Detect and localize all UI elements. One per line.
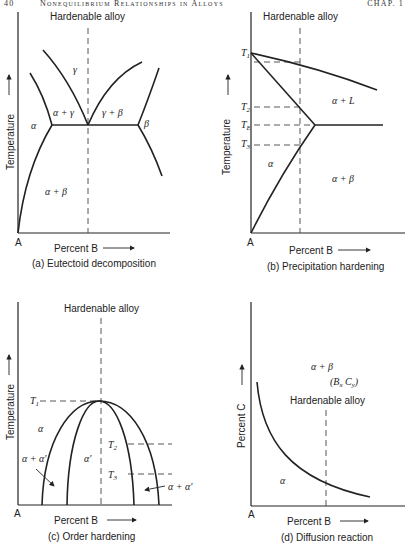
panel-a-eutectoid: Hardenable alloy γ α + γ γ + β α β α + β… [5, 11, 170, 269]
svg-text:β: β [143, 118, 149, 129]
panel-d-top-label: Hardenable alloy [290, 395, 365, 406]
svg-text:T3: T3 [108, 469, 118, 482]
svg-text:α + L: α + L [332, 95, 355, 106]
panel-a-x-label: Percent B [54, 243, 98, 254]
panel-c-top-label: Hardenable alloy [64, 303, 139, 314]
panel-c-origin: A [14, 508, 21, 519]
panel-a-caption: (a) Eutectoid decomposition [32, 258, 156, 269]
svg-text:T3: T3 [241, 138, 251, 151]
panel-d-x-label: Percent B [287, 516, 331, 527]
svg-text:α + β: α + β [45, 186, 67, 197]
panel-d-caption: (d) Diffusion reaction [281, 532, 373, 543]
panel-c-order: Hardenable alloy T1 T2 T3 α α + α' α' α … [5, 302, 193, 542]
svg-text:α: α [268, 158, 274, 169]
panel-b-x-label: Percent B [289, 245, 333, 256]
panel-b-top-label: Hardenable alloy [263, 11, 338, 22]
svg-text:γ + β: γ + β [102, 107, 123, 118]
panel-c-x-label: Percent B [54, 515, 98, 526]
panel-a-top-label: Hardenable alloy [50, 11, 125, 22]
svg-text:γ: γ [73, 64, 78, 75]
svg-text:α + β: α + β [311, 361, 333, 372]
svg-text:α: α [31, 120, 37, 131]
svg-text:α: α [280, 475, 286, 486]
svg-text:α + β: α + β [332, 173, 354, 184]
svg-text:α + α': α + α' [168, 481, 193, 492]
panel-b-precipitation: Hardenable alloy T1 T2 TE T3 α + L α α +… [221, 11, 405, 272]
svg-text:T1: T1 [241, 47, 250, 60]
panel-c-caption: (c) Order hardening [48, 531, 135, 542]
svg-text:α + γ: α + γ [53, 107, 75, 118]
panel-b-y-label: Temperature [221, 118, 232, 175]
svg-text:T1: T1 [30, 395, 39, 408]
panel-d-diffusion: α + β (Bx Cy) Hardenable alloy α Percent… [236, 302, 405, 543]
panel-d-y-label: Percent C [236, 404, 247, 448]
svg-text:α: α [38, 423, 44, 434]
panel-c-y-label: Temperature [5, 383, 16, 440]
svg-text:TE: TE [241, 119, 252, 132]
phase-diagrams-figure: Hardenable alloy γ α + γ γ + β α β α + β… [0, 0, 406, 547]
svg-text:(Bx Cy): (Bx Cy) [330, 376, 359, 389]
panel-a-y-label: Temperature [5, 113, 16, 170]
svg-text:α': α' [84, 453, 92, 464]
panel-a-origin: A [15, 237, 22, 248]
svg-text:α + α': α + α' [22, 453, 47, 464]
panel-b-origin: A [247, 237, 254, 248]
svg-text:T2: T2 [108, 439, 118, 452]
svg-text:T2: T2 [241, 101, 251, 114]
panel-d-origin: A [248, 509, 255, 520]
panel-b-caption: (b) Precipitation hardening [267, 261, 384, 272]
